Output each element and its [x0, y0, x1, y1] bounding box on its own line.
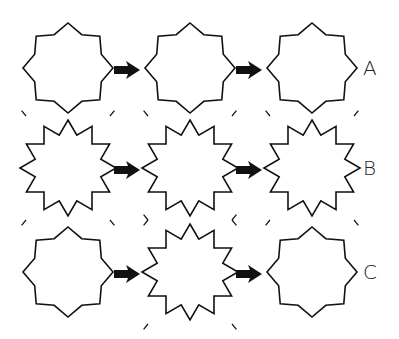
ray-mark [232, 215, 236, 220]
row-label-a: A [363, 56, 377, 80]
arrow-right-icon [114, 265, 140, 283]
arrow-right-icon [114, 61, 140, 79]
ray-mark [110, 111, 114, 116]
ray-mark [144, 111, 148, 116]
ray-mark [144, 324, 148, 329]
ray-mark [266, 111, 270, 116]
ray-mark [22, 111, 26, 116]
starburst-icon [264, 111, 360, 226]
star-icon [267, 23, 357, 113]
starburst-icon [20, 111, 116, 226]
row-label-c: C [363, 260, 377, 284]
ray-mark [144, 220, 148, 225]
star-icon [145, 23, 235, 113]
star-icon [23, 227, 113, 317]
ray-mark [22, 220, 26, 225]
arrow-right-icon [114, 161, 140, 179]
arrow-right-icon [236, 265, 262, 283]
ray-mark [144, 215, 148, 220]
ray-mark [232, 220, 236, 225]
starburst-icon [142, 215, 238, 330]
ray-mark [232, 324, 236, 329]
star-icon [23, 23, 113, 113]
ray-mark [354, 220, 358, 225]
diagram [0, 0, 399, 339]
arrow-right-icon [236, 61, 262, 79]
starburst-icon [142, 111, 238, 226]
ray-mark [232, 111, 236, 116]
ray-mark [354, 111, 358, 116]
arrow-right-icon [236, 161, 262, 179]
ray-mark [110, 220, 114, 225]
row-label-b: B [363, 156, 376, 180]
star-icon [267, 227, 357, 317]
ray-mark [266, 220, 270, 225]
